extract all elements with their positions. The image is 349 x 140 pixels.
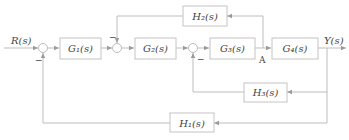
sign-s2: − xyxy=(109,32,117,42)
summing-junction-3 xyxy=(189,44,198,53)
summing-junction-1 xyxy=(39,44,48,53)
summing-junction-2 xyxy=(113,44,122,53)
input-label: R(s) xyxy=(10,35,32,46)
block-g4-label: G₄(s) xyxy=(283,43,308,54)
sign-s1: − xyxy=(35,55,43,65)
wire-h1-s1 xyxy=(43,53,170,123)
block-g2-label: G₂(s) xyxy=(143,43,168,54)
output-label: Y(s) xyxy=(324,35,344,46)
sign-s3: − xyxy=(197,54,205,64)
block-h2-label: H₂(s) xyxy=(191,11,218,22)
block-h3-label: H₃(s) xyxy=(252,87,279,98)
node-a-label: A xyxy=(258,55,266,65)
block-g3-label: G₃(s) xyxy=(220,43,245,54)
block-h1-label: H₁(s) xyxy=(178,118,205,129)
block-diagram: − − − G₁(s) G₂(s) G₃(s) G₄(s) H₂(s) H₃(s… xyxy=(0,0,349,140)
block-g1-label: G₁(s) xyxy=(68,43,93,54)
